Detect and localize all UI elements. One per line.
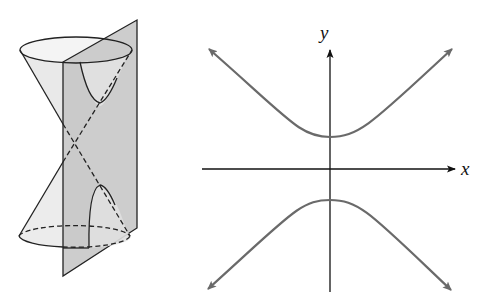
- conic-hyperbola-diagram: y x: [0, 0, 487, 296]
- y-axis-label: y: [318, 22, 329, 43]
- x-axis-label: x: [460, 158, 470, 179]
- hyperbola-graph: y x: [202, 22, 470, 292]
- upper-branch-left: [209, 49, 330, 137]
- lower-branch-left: [208, 200, 330, 289]
- double-cone-figure: [19, 20, 137, 276]
- upper-branch-right: [330, 49, 452, 137]
- lower-branch-right: [330, 200, 451, 290]
